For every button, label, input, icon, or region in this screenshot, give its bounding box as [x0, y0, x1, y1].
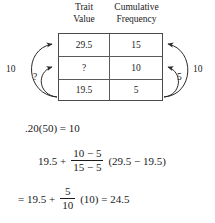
label-left-inner-interval: ? — [33, 72, 37, 82]
label-left-outer-interval: 10 — [6, 64, 16, 74]
equation-line-2-denominator: 15 − 5 — [71, 161, 103, 173]
column-header-cumulative-frequency: Cumulative Frequency — [110, 2, 163, 25]
frequency-table: 29.5 15 ? 10 19.5 5 — [58, 33, 163, 101]
figure-container: Trait Value Cumulative Frequency 29.5 15… — [0, 0, 215, 223]
equation-line-3-denominator: 10 — [60, 199, 75, 211]
label-right-inner-interval: 5 — [177, 72, 182, 82]
label-right-outer-interval: 10 — [193, 64, 203, 74]
table-row: 19.5 5 — [59, 79, 162, 101]
column-header-cumulative-frequency-line2: Frequency — [110, 14, 163, 26]
equation-line-3-trail: (10) = 24.5 — [80, 193, 129, 205]
equation-line-3-lead: = 19.5 + — [18, 193, 55, 205]
table-headers: Trait Value Cumulative Frequency — [58, 2, 163, 25]
cell-cumulative-frequency: 15 — [110, 34, 162, 56]
column-header-trait-value: Trait Value — [58, 2, 110, 25]
column-header-trait-value-line2: Value — [58, 14, 110, 26]
equation-line-2-trail: (29.5 − 19.5) — [108, 155, 166, 167]
column-header-cumulative-frequency-line1: Cumulative — [110, 2, 163, 14]
equation-line-1: .20(50) = 10 — [25, 122, 80, 134]
equation-line-2: 19.5 + 10 − 5 15 − 5 (29.5 − 19.5) — [38, 148, 166, 173]
table-row: 29.5 15 — [59, 34, 162, 56]
equation-line-3-fraction: 5 10 — [60, 186, 75, 211]
left-inner-arc — [41, 67, 57, 97]
equation-line-1-text: .20(50) = 10 — [25, 122, 80, 134]
cell-cumulative-frequency: 5 — [110, 80, 162, 101]
cell-trait-value: 29.5 — [59, 34, 110, 56]
cell-trait-value: 19.5 — [59, 80, 110, 101]
right-outer-arc — [164, 44, 188, 97]
equation-line-2-fraction: 10 − 5 15 − 5 — [71, 148, 103, 173]
table-row: ? 10 — [59, 56, 162, 78]
cell-cumulative-frequency: 10 — [110, 57, 162, 78]
equation-line-3-numerator: 5 — [63, 186, 73, 198]
cell-trait-value: ? — [59, 57, 110, 78]
equation-line-2-numerator: 10 − 5 — [71, 148, 103, 160]
equation-line-2-lead: 19.5 + — [38, 155, 66, 167]
column-header-trait-value-line1: Trait — [58, 2, 110, 14]
left-outer-arc — [32, 44, 57, 97]
equation-line-3: = 19.5 + 5 10 (10) = 24.5 — [18, 186, 129, 211]
